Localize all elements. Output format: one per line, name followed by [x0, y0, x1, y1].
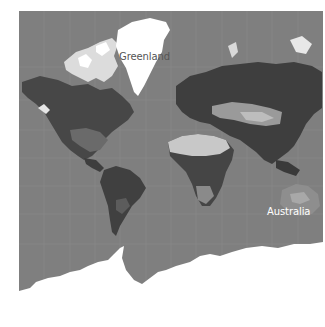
world-map[interactable]	[0, 0, 325, 327]
label-greenland: Greenland	[119, 51, 170, 63]
label-australia: Australia	[267, 206, 310, 218]
